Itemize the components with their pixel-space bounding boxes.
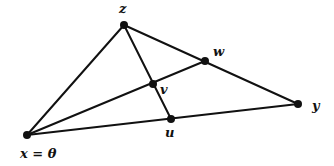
point-v (149, 80, 157, 88)
label-z: z (118, 1, 127, 16)
diagram-canvas: x = θ y z w v u (0, 0, 334, 166)
point-y (294, 100, 302, 108)
label-w: w (213, 44, 225, 59)
label-x: x = θ (19, 146, 57, 161)
edge-z-y (124, 25, 298, 104)
label-y: y (311, 98, 321, 113)
point-x (23, 131, 31, 139)
edge-z-u (124, 25, 171, 119)
label-v: v (160, 82, 168, 97)
point-z (120, 21, 128, 29)
label-u: u (165, 125, 174, 140)
point-u (167, 115, 175, 123)
edge-x-y (27, 104, 298, 135)
edge-x-z (27, 25, 124, 135)
point-w (201, 57, 209, 65)
